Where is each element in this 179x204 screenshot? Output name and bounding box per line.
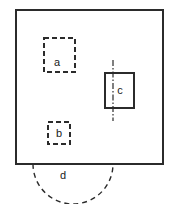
feature-c-label: c [117, 84, 123, 96]
diagram-canvas: a b c d [0, 0, 179, 204]
feature-a-label: a [54, 56, 61, 68]
feature-d-label: d [60, 169, 66, 181]
plate-outline-rectangle [16, 10, 163, 164]
feature-b-label: b [56, 127, 62, 139]
feature-d-dashed-arc [33, 164, 113, 204]
technical-diagram: a b c d [0, 0, 179, 204]
